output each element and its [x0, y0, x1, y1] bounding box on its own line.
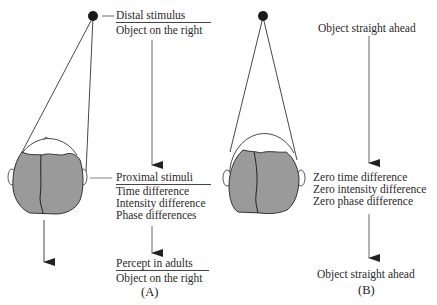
percept-heading: Percept in adults	[116, 257, 209, 271]
zero-time-difference: Zero time difference	[313, 171, 407, 183]
proximal-stimuli-heading: Proximal stimuli	[116, 171, 211, 185]
proximal-item-intensity: Intensity difference	[116, 197, 206, 209]
proximal-item-time: Time difference	[116, 185, 189, 197]
proximal-item-phase: Phase differences	[116, 209, 197, 221]
percept-value: Object on the right	[116, 272, 203, 284]
sound-source-dot	[88, 11, 98, 21]
diagram-graphics	[0, 0, 437, 305]
zero-phase-difference: Zero phase difference	[313, 195, 413, 207]
panel-a-label: (A)	[141, 285, 158, 300]
panel-b-graphics	[223, 11, 369, 258]
panel-b-top-text: Object straight ahead	[318, 22, 416, 34]
panel-a-graphics	[8, 11, 152, 262]
panel-b-label: (B)	[358, 283, 375, 298]
distal-stimulus-heading: Distal stimulus	[116, 9, 211, 23]
panel-b-bottom-text: Object straight ahead	[317, 268, 415, 280]
head-icon	[8, 137, 87, 214]
head-icon-b	[223, 133, 305, 213]
sound-source-dot-b	[258, 11, 268, 21]
zero-intensity-difference: Zero intensity difference	[313, 183, 426, 195]
distal-stimulus-value: Object on the right	[116, 24, 203, 36]
